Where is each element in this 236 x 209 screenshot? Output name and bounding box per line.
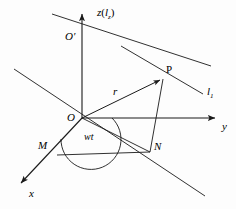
y-axis-label: y — [222, 121, 227, 132]
line-lz-parallel — [52, 14, 211, 66]
angle-arc-wt — [61, 118, 121, 169]
geometry-figure: z(lz) O′ P l1 r O y wt M N x — [0, 0, 236, 209]
x-axis — [21, 118, 82, 183]
origin-prime-label: O′ — [65, 31, 75, 42]
segment-m-n — [57, 152, 150, 155]
z-axis-paren-close: ) — [111, 6, 115, 18]
point-n-label: N — [154, 141, 161, 152]
point-p-label: P — [166, 64, 172, 75]
angle-wt-label: wt — [84, 132, 93, 142]
radius-vector — [82, 80, 160, 118]
x-axis-label: x — [29, 188, 34, 199]
radius-label: r — [113, 86, 117, 97]
line-l1-label: l1 — [207, 86, 214, 100]
z-axis-label: z(lz) — [97, 7, 114, 21]
origin-label: O — [67, 112, 75, 123]
point-m-label: M — [38, 140, 47, 151]
line-l1-subscript: 1 — [210, 92, 214, 100]
figure-canvas — [0, 0, 236, 209]
rotation-plane-line — [14, 69, 205, 196]
